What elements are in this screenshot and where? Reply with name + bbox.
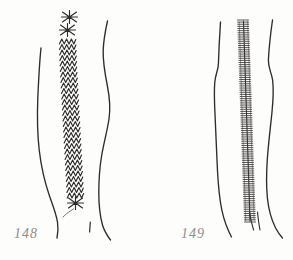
illustration-plate: 148 149: [0, 0, 293, 260]
figure-label-148: 148: [14, 226, 38, 242]
figure-148-tick-mark: [90, 222, 91, 232]
figure-label-149: 149: [181, 226, 205, 242]
plate-drawing: [0, 0, 293, 260]
